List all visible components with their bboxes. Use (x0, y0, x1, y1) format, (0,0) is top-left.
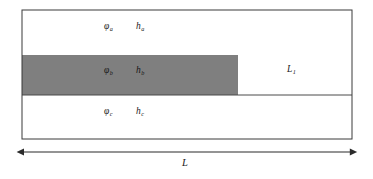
layer-c-thickness-subscript: c (141, 110, 144, 117)
shaded-region (22, 55, 238, 95)
layer-b-potential-label: φb (104, 66, 113, 76)
right-region-label: L1 (287, 65, 296, 75)
schematic-vector-layer (0, 0, 373, 179)
layer-a-potential-symbol: φ (104, 21, 109, 31)
layer-c-potential-symbol: φ (104, 106, 109, 116)
layer-c-thickness-label: hc (136, 107, 144, 117)
right-region-symbol: L (287, 64, 292, 74)
layer-a-potential-label: φa (104, 22, 113, 32)
layer-b-potential-symbol: φ (104, 65, 109, 75)
layer-a-thickness-subscript: a (141, 25, 144, 32)
layer-a-thickness-label: ha (136, 22, 144, 32)
layer-b-potential-subscript: b (110, 69, 113, 76)
layer-a-potential-subscript: a (110, 25, 113, 32)
layer-c-potential-subscript: c (110, 110, 113, 117)
right-region-subscript: 1 (293, 68, 296, 75)
layer-c-potential-label: φc (104, 107, 112, 117)
layer-b-thickness-subscript: b (141, 69, 144, 76)
layer-b-thickness-label: hb (136, 66, 144, 76)
length-dimension-label: L (182, 158, 188, 169)
diagram-canvas: φa ha φb hb φc hc L1 L (0, 0, 373, 179)
